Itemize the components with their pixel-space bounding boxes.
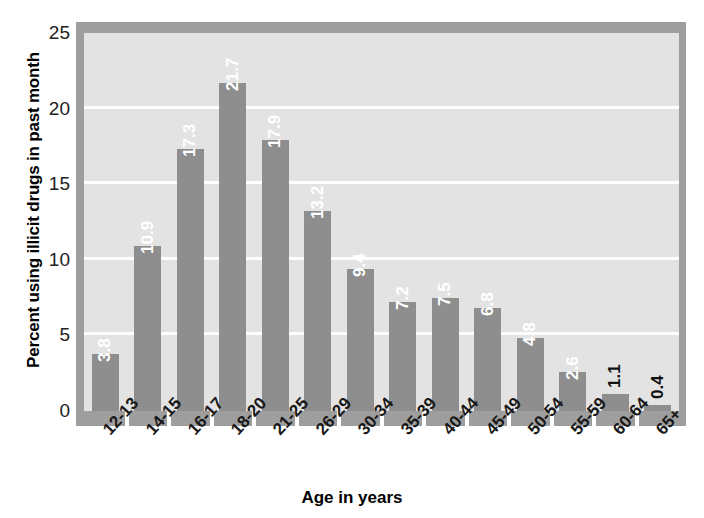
bar[interactable]: 10.9	[134, 246, 161, 411]
bar-value-label: 10.9	[138, 221, 158, 254]
bar[interactable]: 7.5	[432, 298, 459, 411]
x-axis-tick-labels: 12-1314-1516-1718-2021-2526-2930-3435-39…	[76, 426, 686, 488]
bar[interactable]: 7.2	[389, 302, 416, 411]
gridline	[84, 332, 679, 335]
bar-value-label: 7.5	[435, 282, 455, 306]
bar-value-label: 1.1	[605, 365, 625, 389]
gridline	[84, 257, 679, 260]
bar-value-label: 4.8	[520, 323, 540, 347]
bar[interactable]: 13.2	[304, 211, 331, 411]
bar[interactable]: 4.8	[517, 338, 544, 411]
y-axis-tick-label: 15	[26, 173, 70, 195]
y-axis-tick-labels: 0510152025	[26, 0, 70, 440]
plot-frame: 3.810.917.321.717.913.29.47.27.56.84.82.…	[76, 22, 686, 426]
bar-value-label: 6.8	[478, 293, 498, 317]
y-axis-tick-label: 5	[26, 324, 70, 346]
bar[interactable]: 17.3	[177, 149, 204, 411]
x-axis-title: Age in years	[0, 488, 704, 508]
y-axis-tick-label: 25	[26, 22, 70, 44]
gridline	[84, 106, 679, 109]
gridline	[84, 181, 679, 184]
bar-value-label: 17.3	[180, 124, 200, 157]
bar-value-label: 21.7	[223, 58, 243, 91]
bar-value-label: 7.2	[393, 287, 413, 311]
bar-value-label: 3.8	[95, 338, 115, 362]
bar-value-label: 13.2	[308, 186, 328, 219]
y-axis-tick-label: 0	[26, 400, 70, 422]
bar-value-label: 17.9	[265, 115, 285, 148]
y-axis-tick-label: 10	[26, 249, 70, 271]
bar[interactable]: 17.9	[262, 140, 289, 411]
bar[interactable]: 6.8	[474, 308, 501, 411]
bar-value-label: 0.4	[648, 375, 668, 399]
bar-value-label: 9.4	[350, 253, 370, 277]
bar[interactable]: 3.8	[92, 354, 119, 411]
bar-value-label: 2.6	[563, 356, 583, 380]
bar[interactable]: 9.4	[347, 269, 374, 411]
y-axis-tick-label: 20	[26, 98, 70, 120]
plot-area: 3.810.917.321.717.913.29.47.27.56.84.82.…	[84, 33, 679, 411]
bar[interactable]: 21.7	[219, 83, 246, 411]
